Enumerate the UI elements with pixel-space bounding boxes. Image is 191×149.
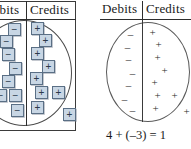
credit-sign: +: [160, 65, 169, 76]
left-panel-header: Debits Credits: [0, 1, 76, 20]
debit-tile: −: [2, 75, 15, 88]
right-header-divider: [142, 1, 143, 19]
right-diagram-panel: Debits Credits ––––––– +++++++++ 4 + (–3…: [98, 0, 191, 149]
debit-sign: –: [120, 94, 129, 105]
credit-tile: +: [31, 47, 44, 60]
equation-caption: 4 + (–3) = 1: [106, 128, 166, 143]
debit-tile: −: [0, 89, 7, 102]
left-header-rule: [0, 19, 76, 20]
left-column-divider: [26, 20, 27, 126]
credit-sign: +: [153, 52, 162, 63]
credit-sign: +: [170, 90, 179, 101]
debit-tile: −: [11, 104, 24, 117]
credit-sign: +: [151, 103, 160, 114]
debit-sign: –: [123, 42, 132, 53]
debit-tile: −: [2, 48, 15, 61]
right-credits-header: Credits: [146, 0, 185, 17]
debit-sign: –: [124, 80, 133, 91]
debit-sign: –: [126, 29, 135, 40]
left-header-divider: [26, 1, 27, 19]
credit-tile: +: [30, 72, 43, 85]
debit-sign: –: [128, 68, 137, 79]
right-debits-header: Debits: [102, 0, 137, 17]
debit-tile: −: [9, 62, 22, 75]
credit-tile: +: [42, 60, 55, 73]
debit-tile: −: [0, 35, 13, 48]
debit-sign: –: [128, 105, 137, 116]
credit-sign: +: [150, 77, 159, 88]
left-credits-header: Credits: [30, 1, 69, 18]
credit-sign: +: [182, 106, 191, 117]
debit-sign: –: [124, 54, 133, 65]
right-header-rule: [100, 19, 191, 20]
credit-sign: +: [154, 39, 163, 50]
left-debits-header: Debits: [0, 1, 19, 18]
credit-tile: +: [52, 86, 65, 99]
debit-tile: −: [9, 89, 22, 102]
credit-sign: +: [153, 90, 162, 101]
credit-tile: +: [63, 108, 76, 121]
credit-tile: +: [31, 101, 44, 114]
right-column-divider: [142, 20, 143, 122]
credit-tile: +: [35, 86, 48, 99]
left-diagram-panel: Debits Credits −−−−−−−− +++++++++: [0, 0, 78, 133]
credit-sign: +: [148, 27, 157, 38]
credit-tile: +: [39, 34, 52, 47]
